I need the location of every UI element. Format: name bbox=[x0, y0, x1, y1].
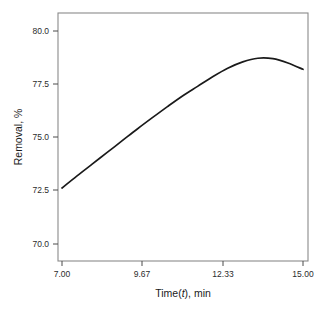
chart-background bbox=[0, 0, 321, 309]
x-tick-label-9-67: 9.67 bbox=[134, 269, 151, 279]
x-tick-label-15: 15.00 bbox=[292, 269, 314, 279]
chart-page: 80.0 77.5 75.0 72.5 70.0 7.00 9.67 12.33… bbox=[0, 0, 321, 309]
removal-vs-time-line-chart: 80.0 77.5 75.0 72.5 70.0 7.00 9.67 12.33… bbox=[0, 0, 321, 309]
x-tick-label-12-33: 12.33 bbox=[212, 269, 234, 279]
x-axis-title-suffix: ), min bbox=[185, 287, 211, 299]
x-axis-title: Time(t), min bbox=[155, 287, 211, 299]
y-tick-label-75: 75.0 bbox=[32, 132, 49, 142]
x-axis-title-prefix: Time( bbox=[155, 287, 182, 299]
y-tick-label-80: 80.0 bbox=[32, 26, 49, 36]
y-tick-label-72-5: 72.5 bbox=[32, 185, 49, 195]
y-tick-label-77-5: 77.5 bbox=[32, 79, 49, 89]
y-tick-label-70: 70.0 bbox=[32, 239, 49, 249]
x-tick-label-7: 7.00 bbox=[54, 269, 71, 279]
y-axis-title: Removal, % bbox=[12, 109, 24, 166]
